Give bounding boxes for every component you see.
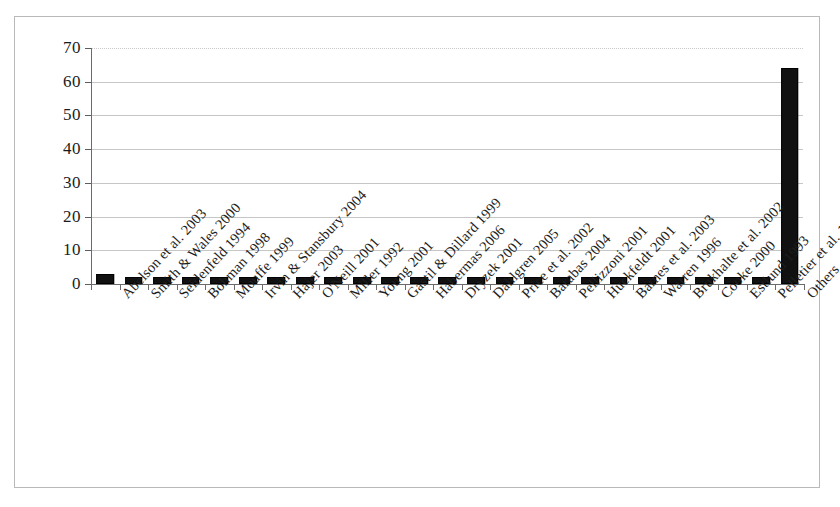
x-axis-label: Price et al. 2002 bbox=[519, 291, 530, 301]
y-tick-label-60: 60 bbox=[63, 72, 81, 92]
y-tick-label-30: 30 bbox=[63, 173, 81, 193]
bar-slot bbox=[91, 48, 120, 284]
x-axis-label: Mouffe 1999 bbox=[233, 291, 244, 301]
bar-slot bbox=[120, 48, 149, 284]
x-axis-label: Pelletier et al. 1999 bbox=[775, 291, 786, 301]
y-tick-label-40: 40 bbox=[63, 139, 81, 159]
x-axis-label: Young 2001 bbox=[376, 291, 387, 301]
figure-frame: 706050403020100 Abelson et al. 2003Smith… bbox=[14, 16, 820, 488]
x-axis-label: Abelson et al. 2003 bbox=[119, 291, 130, 301]
y-axis: 706050403020100 bbox=[15, 48, 81, 284]
bar[interactable] bbox=[96, 274, 114, 284]
x-axis-label: Pellizzoni 2001 bbox=[576, 291, 587, 301]
x-axis-label: Habermas 2006 bbox=[433, 291, 444, 301]
x-axis-label: Estlund 1993 bbox=[747, 291, 758, 301]
x-axis-label: Hajer 2003 bbox=[290, 291, 301, 301]
x-axis-label: Miller 1992 bbox=[347, 291, 358, 301]
x-axis-label: Huckfeldt 2001 bbox=[604, 291, 615, 301]
screenshot-page: 706050403020100 Abelson et al. 2003Smith… bbox=[0, 0, 840, 507]
x-axis-label: Irvin & Stansbury 2004 bbox=[262, 291, 273, 301]
x-axis-label: Smith & Wales 2000 bbox=[148, 291, 159, 301]
x-axis-label: O'Neill 2001 bbox=[319, 291, 330, 301]
x-axis-label: Others bbox=[804, 291, 815, 301]
y-tick-label-20: 20 bbox=[63, 207, 81, 227]
x-axis-label: Dahlgren 2005 bbox=[490, 291, 501, 301]
x-axis-label: Barabas 2004 bbox=[547, 291, 558, 301]
x-axis-label: Bohman 1998 bbox=[205, 291, 216, 301]
x-axis-labels: Abelson et al. 2003Smith & Wales 2000Sei… bbox=[91, 291, 804, 481]
x-axis-label: Dryzek 2001 bbox=[462, 291, 473, 301]
y-tick-label-10: 10 bbox=[63, 240, 81, 260]
y-tick-label-70: 70 bbox=[63, 38, 81, 58]
y-tick-label-0: 0 bbox=[72, 274, 81, 294]
x-axis-label: Barnes et al. 2003 bbox=[633, 291, 644, 301]
x-axis-label: Gastil & Dillard 1999 bbox=[404, 291, 415, 301]
x-axis-label: Warren 1996 bbox=[661, 291, 672, 301]
x-axis-label: Seidenfeld 1994 bbox=[176, 291, 187, 301]
x-axis-label: Cooke 2000 bbox=[718, 291, 729, 301]
x-axis-label: Brukhalte et al. 2002 bbox=[690, 291, 701, 301]
y-tick-label-50: 50 bbox=[63, 105, 81, 125]
bar-chart: 706050403020100 Abelson et al. 2003Smith… bbox=[15, 17, 821, 489]
x-tick-mark bbox=[91, 284, 92, 290]
